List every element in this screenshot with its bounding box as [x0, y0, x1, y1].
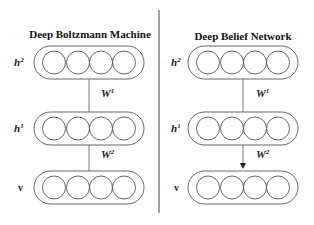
dbm-edge-w1-label: W1 [101, 87, 114, 99]
dbm-title: Deep Boltzmann Machine [29, 28, 151, 40]
dbn-layer-h1-pill [188, 112, 298, 145]
dbn-v-unit-2 [221, 176, 244, 199]
dbm-layer-v-label: v [18, 182, 23, 193]
dbn-h1-unit-1 [197, 117, 220, 140]
dbn-layer-h1: h1 [171, 112, 298, 145]
dbm-h1-unit-3 [90, 117, 113, 140]
dbm-v-unit-3 [90, 176, 113, 199]
dbn-h2-unit-1 [197, 51, 220, 74]
dbm-edge-w2-label: W2 [101, 148, 115, 160]
dbm-layer-h2: h2 [14, 46, 144, 79]
dbn-h1-unit-4 [267, 117, 290, 140]
dbn-layer-h2: h2 [171, 46, 298, 79]
dbn-edge-w1-label: W1 [256, 87, 269, 99]
dbm-v-unit-1 [43, 176, 66, 199]
dbn-layer-v: v [174, 171, 298, 204]
dbm-layer-v-pill [34, 171, 144, 204]
dbm-layer-h1-label: h1 [14, 122, 24, 134]
dbm-v-unit-4 [113, 176, 136, 199]
dbn-h2-unit-2 [221, 51, 244, 74]
dbm-layer-v: v [18, 171, 144, 204]
dbn-v-unit-3 [244, 176, 267, 199]
dbm-h2-unit-1 [43, 51, 66, 74]
dbn-layer-v-pill [188, 171, 298, 204]
dbm-h2-unit-4 [113, 51, 136, 74]
dbn-layer-h1-label: h1 [171, 122, 181, 134]
dbn-layer-h2-pill [188, 46, 298, 79]
dbm-layer-h2-label: h2 [14, 56, 24, 68]
dbm-h2-unit-3 [90, 51, 113, 74]
dbn-panel: Deep Belief Network h2 W1 h1 W2 v [171, 30, 298, 204]
dbn-h1-unit-3 [244, 117, 267, 140]
dbm-panel: Deep Boltzmann Machine h2 W1 h1 W2 v [14, 28, 151, 204]
dbn-v-unit-4 [267, 176, 290, 199]
dbn-h2-unit-4 [267, 51, 290, 74]
dbn-h1-unit-2 [221, 117, 244, 140]
dbm-v-unit-2 [67, 176, 90, 199]
dbm-h1-unit-1 [43, 117, 66, 140]
dbn-v-unit-1 [197, 176, 220, 199]
dbm-h1-unit-2 [67, 117, 90, 140]
dbm-layer-h1-pill [34, 112, 144, 145]
dbm-h2-unit-2 [67, 51, 90, 74]
dbm-h1-unit-4 [113, 117, 136, 140]
dbm-layer-h1: h1 [14, 112, 144, 145]
dbn-h2-unit-3 [244, 51, 267, 74]
dbn-layer-v-label: v [174, 182, 179, 193]
dbn-edge-w2-label: W2 [256, 148, 270, 160]
dbm-layer-h2-pill [34, 46, 144, 79]
dbn-layer-h2-label: h2 [171, 56, 181, 68]
diagram-canvas: Deep Boltzmann Machine h2 W1 h1 W2 v [0, 0, 314, 225]
dbn-title: Deep Belief Network [194, 30, 292, 42]
